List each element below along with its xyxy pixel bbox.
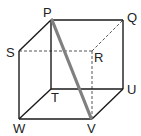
vertex-label-P: P (43, 5, 52, 20)
vertex-label-Q: Q (127, 10, 137, 25)
edge-RQ-hidden (92, 20, 123, 51)
vertex-label-T: T (51, 90, 59, 105)
vertex-label-U: U (127, 82, 136, 97)
cube-diagram: P Q S R T U W V (0, 0, 141, 136)
vertex-label-V: V (87, 121, 96, 136)
vertex-label-W: W (13, 121, 26, 136)
vertex-label-R: R (94, 50, 103, 65)
edge-VU (92, 89, 123, 119)
edge-PS (19, 20, 51, 51)
vertex-label-S: S (6, 45, 15, 60)
edge-TW (19, 89, 51, 119)
